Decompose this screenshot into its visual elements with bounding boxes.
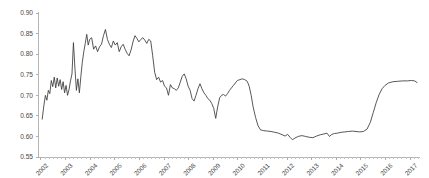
y-tick-label: 0.60 [20, 133, 33, 140]
y-tick-label: 0.80 [20, 50, 33, 57]
x-tick-label: 2009 [206, 161, 221, 176]
x-tick-label: 2005 [108, 161, 123, 176]
x-tick-label: 2008 [182, 161, 197, 176]
y-tick-label: 0.75 [20, 71, 33, 78]
x-tick-label: 2013 [305, 161, 320, 176]
line-chart: 0.550.600.650.700.750.800.850.9020022003… [0, 0, 429, 178]
x-tick-label: 2014 [330, 161, 345, 176]
x-tick-label: 2006 [133, 161, 148, 176]
x-tick-label: 2017 [403, 161, 418, 176]
x-tick-label: 2004 [83, 161, 98, 176]
x-tick-label: 2003 [59, 161, 74, 176]
y-tick-label: 0.65 [20, 112, 33, 119]
x-tick-label: 2010 [231, 161, 246, 176]
y-tick-label: 0.55 [20, 153, 33, 160]
x-tick-label: 2012 [280, 161, 295, 176]
chart-canvas: 0.550.600.650.700.750.800.850.9020022003… [0, 0, 429, 178]
x-tick-label: 2007 [157, 161, 172, 176]
y-tick-label: 0.70 [20, 92, 33, 99]
x-tick-label: 2015 [354, 161, 369, 176]
series-line-1 [42, 29, 417, 139]
y-tick-label: 0.85 [20, 30, 33, 37]
x-tick-label: 2011 [256, 161, 271, 176]
y-tick-label: 0.90 [20, 9, 33, 16]
x-tick-label: 2002 [34, 161, 49, 176]
x-tick-label: 2016 [379, 161, 394, 176]
